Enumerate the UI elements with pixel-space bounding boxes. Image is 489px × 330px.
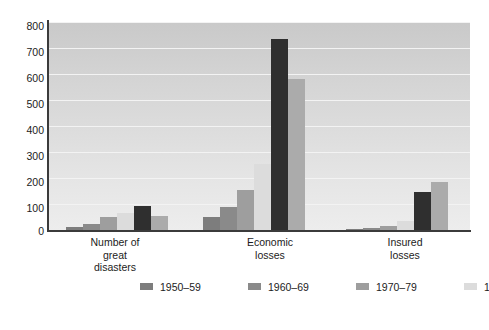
x-axis-line [47,230,471,232]
bar-2-5 [431,182,448,230]
bar-1-1 [220,207,237,230]
y-axis-tick-100: 100 [0,203,44,213]
gridline-800 [48,22,470,23]
legend-item-0[interactable]: 1950–59 [140,277,248,296]
y-axis-line [47,20,49,232]
bar-2-4 [414,192,431,230]
category-label-0-line-2: disasters [45,261,185,274]
bar-0-5 [151,216,168,230]
y-axis-tick-labels: 800 700 600 500 400 300 200 100 0 [0,0,44,330]
legend-label-3: 1980–89 [484,281,489,293]
category-label-2: Insured losses [335,236,475,261]
bar-0-3 [117,213,134,230]
category-label-2-line-0: Insured [335,236,475,249]
bar-0-4 [134,206,151,230]
category-label-2-line-1: losses [335,249,475,262]
y-axis-tick-400: 400 [0,125,44,135]
category-label-0-line-1: great [45,249,185,262]
bar-1-3 [254,164,271,230]
plot-area [48,22,470,230]
legend-label-0: 1950–59 [160,281,201,293]
category-label-1-line-0: Economic [200,236,340,249]
legend-item-2[interactable]: 1970–79 [356,277,464,296]
category-label-1-line-1: losses [200,249,340,262]
bar-1-0 [203,217,220,230]
bar-1-2 [237,190,254,230]
bar-1-5 [288,79,305,230]
bar-group-1 [203,39,305,230]
bar-group-2 [346,182,448,230]
y-axis-tick-500: 500 [0,99,44,109]
category-label-0-line-0: Number of [45,236,185,249]
category-label-0: Number of great disasters [45,236,185,274]
y-axis-tick-300: 300 [0,151,44,161]
legend-label-1: 1960–69 [268,281,309,293]
y-axis-tick-800: 800 [0,21,44,31]
legend-swatch-icon-3 [464,283,477,290]
legend: 1950–591960–691970–791980–891990–99Last … [140,277,489,296]
bar-chart: 800 700 600 500 400 300 200 100 0 Number… [0,0,489,330]
legend-item-1[interactable]: 1960–69 [248,277,356,296]
category-label-1: Economic losses [200,236,340,261]
y-axis-tick-700: 700 [0,47,44,57]
bar-group-0 [66,206,168,230]
legend-swatch-icon-0 [140,283,153,290]
bar-0-2 [100,217,117,230]
legend-swatch-icon-1 [248,283,261,290]
legend-item-3[interactable]: 1980–89 [464,277,489,296]
y-axis-tick-200: 200 [0,177,44,187]
bar-2-3 [397,221,414,230]
legend-label-2: 1970–79 [376,281,417,293]
legend-swatch-icon-2 [356,283,369,290]
y-axis-tick-0: 0 [0,226,44,236]
bar-1-4 [271,39,288,230]
y-axis-tick-600: 600 [0,73,44,83]
